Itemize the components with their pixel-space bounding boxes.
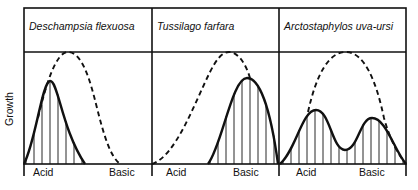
panel-3-basic-label: Basic: [359, 166, 385, 178]
panel-3-acid-label: Acid: [296, 166, 316, 178]
panel-2-acid-label: Acid: [166, 166, 186, 178]
y-axis-label: Growth: [3, 92, 15, 126]
panel-2-field-curve: [208, 78, 278, 164]
panel-1-field-curve: [24, 81, 85, 164]
panel-3-title: Arctostaphylos uva-ursi: [284, 20, 393, 32]
panel-2-basic-label: Basic: [233, 166, 259, 178]
panel-1-acid-label: Acid: [33, 166, 53, 178]
panel-2-title: Tussilago farfara: [157, 20, 234, 32]
panel-1-basic-label: Basic: [109, 166, 135, 178]
panel-2-potential-curve: [152, 52, 250, 164]
panel-1-title: Deschampsia flexuosa: [29, 20, 135, 32]
